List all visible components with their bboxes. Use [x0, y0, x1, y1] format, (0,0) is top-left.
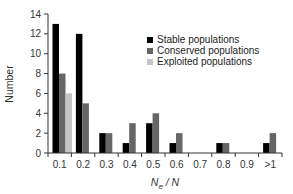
bar-exploited-0.1	[66, 93, 73, 153]
legend-item-stable: Stable populations	[147, 34, 239, 45]
x-tick-label: 0.4	[123, 159, 137, 170]
y-tick-label: 0	[35, 148, 41, 159]
x-tick-label: 0.1	[53, 159, 67, 170]
x-tick-label: >1	[265, 159, 277, 170]
legend-swatch	[147, 59, 153, 65]
legend-label: Stable populations	[157, 34, 239, 45]
bar-conserved-0.2	[82, 103, 89, 153]
x-tick-label: 0.2	[76, 159, 90, 170]
x-tick-label: 0.6	[170, 159, 184, 170]
bar-stable-0.3	[99, 133, 106, 153]
y-axis-label: Number	[3, 65, 15, 103]
bar-conserved-0.3	[106, 133, 113, 153]
bar-conserved-0.6	[176, 133, 183, 153]
x-tick-label: 0.8	[217, 159, 231, 170]
bar-stable-0.2	[76, 34, 83, 153]
x-axis-label: Ne / N	[151, 176, 180, 191]
bar-conserved->1	[270, 133, 277, 153]
bar-stable-0.8	[216, 143, 223, 153]
y-tick-label: 14	[30, 9, 42, 20]
bar-conserved-0.5	[153, 113, 160, 153]
x-tick-label: 0.3	[100, 159, 114, 170]
legend-swatch	[147, 48, 153, 54]
legend-label: Conserved populations	[157, 45, 259, 56]
x-tick-label: 0.5	[146, 159, 160, 170]
y-axis: 02468101214	[30, 9, 48, 159]
legend: Stable populationsConserved populationsE…	[147, 34, 259, 67]
x-tick-label: 0.9	[240, 159, 254, 170]
legend-swatch	[147, 37, 153, 43]
bar-stable-0.1	[53, 24, 60, 153]
bar-conserved-0.1	[59, 74, 66, 153]
bar-conserved-0.4	[129, 123, 136, 153]
y-tick-label: 4	[35, 108, 41, 119]
y-tick-label: 6	[35, 88, 41, 99]
y-tick-label: 12	[30, 28, 42, 39]
x-axis: 0.10.20.30.40.50.60.70.80.9>1	[48, 153, 282, 170]
y-tick-label: 2	[35, 128, 41, 139]
bar-conserved-0.8	[223, 143, 230, 153]
bar-stable-0.5	[146, 123, 153, 153]
legend-item-exploited: Exploited populations	[147, 56, 252, 67]
bar-stable->1	[263, 143, 270, 153]
legend-label: Exploited populations	[157, 56, 252, 67]
bar-chart: 02468101214 0.10.20.30.40.50.60.70.80.9>…	[0, 0, 293, 194]
x-tick-label: 0.7	[193, 159, 207, 170]
y-tick-label: 8	[35, 68, 41, 79]
y-tick-label: 10	[30, 48, 42, 59]
legend-item-conserved: Conserved populations	[147, 45, 259, 56]
bar-stable-0.4	[123, 143, 130, 153]
bar-stable-0.6	[170, 143, 177, 153]
